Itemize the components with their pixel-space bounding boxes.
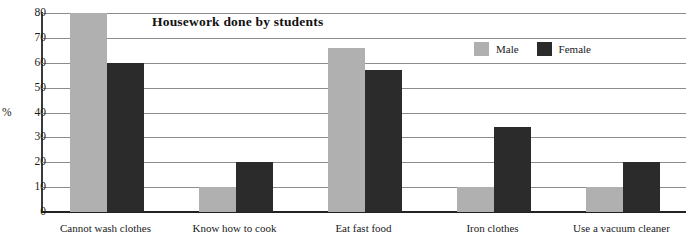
y-tick-label-10: 10	[6, 181, 46, 193]
legend-swatch-male-icon	[474, 42, 489, 56]
y-tick-label-30: 30	[6, 132, 46, 144]
y-tick-label-40: 40	[6, 107, 46, 119]
gridline-80	[41, 13, 686, 14]
legend-entry-female: Female	[537, 42, 591, 56]
legend-label-female: Female	[559, 44, 591, 55]
bar-male-1	[199, 187, 236, 212]
legend: Male Female	[474, 42, 591, 56]
bar-female-2	[365, 70, 402, 212]
bar-chart-figure: Housework done by students % 01020304050…	[0, 0, 692, 244]
y-tick-label-70: 70	[6, 32, 46, 44]
legend-label-male: Male	[496, 44, 519, 55]
x-axis-label-2: Eat fast food	[335, 222, 391, 234]
legend-entry-male: Male	[474, 42, 519, 56]
bar-female-0	[107, 63, 144, 212]
x-axis-label-1: Know how to cook	[192, 222, 276, 234]
bar-female-3	[494, 127, 531, 212]
x-axis-label-4: Use a vacuum cleaner	[573, 222, 670, 234]
bar-male-4	[586, 187, 623, 212]
y-tick-label-20: 20	[6, 157, 46, 169]
y-tick-label-60: 60	[6, 57, 46, 69]
y-tick-label-50: 50	[6, 82, 46, 94]
y-tick-label-0: 0	[6, 206, 46, 218]
y-tick-label-80: 80	[6, 7, 46, 19]
bar-male-3	[457, 187, 494, 212]
bar-male-2	[328, 48, 365, 212]
bar-female-4	[623, 162, 660, 212]
bar-male-0	[70, 13, 107, 212]
x-axis-label-3: Iron clothes	[466, 222, 518, 234]
gridline-70	[41, 38, 686, 39]
bar-female-1	[236, 162, 273, 212]
x-axis-label-0: Cannot wash clothes	[60, 222, 151, 234]
legend-swatch-female-icon	[537, 42, 552, 56]
